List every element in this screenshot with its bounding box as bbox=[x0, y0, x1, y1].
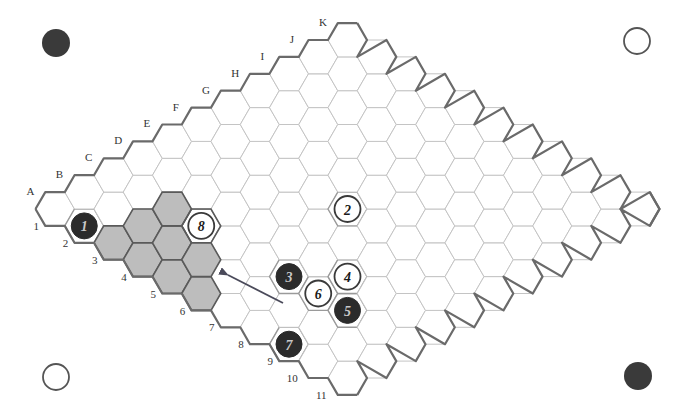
row-label-2: 2 bbox=[63, 237, 69, 249]
row-label-6: 6 bbox=[180, 305, 186, 317]
column-label-E: E bbox=[144, 117, 151, 129]
corner-marker-top-right-white bbox=[624, 28, 650, 54]
stone-move-6: 6 bbox=[305, 281, 331, 307]
stone-move-8: 8 bbox=[188, 213, 214, 239]
row-label-7: 7 bbox=[209, 321, 215, 333]
stone-move-2: 2 bbox=[335, 196, 361, 222]
move-number: 2 bbox=[343, 203, 351, 218]
column-label-F: F bbox=[173, 101, 179, 113]
move-number: 5 bbox=[344, 304, 351, 319]
row-label-4: 4 bbox=[121, 271, 127, 283]
column-label-C: C bbox=[85, 151, 92, 163]
column-label-A: A bbox=[27, 185, 35, 197]
row-label-5: 5 bbox=[151, 288, 157, 300]
column-label-K: K bbox=[319, 16, 327, 28]
stone-move-3: 3 bbox=[276, 264, 302, 290]
stone-move-4: 4 bbox=[335, 264, 361, 290]
move-number: 3 bbox=[285, 270, 293, 285]
row-label-11: 11 bbox=[316, 389, 327, 401]
column-label-I: I bbox=[261, 50, 265, 62]
column-label-G: G bbox=[202, 84, 210, 96]
row-label-10: 10 bbox=[287, 372, 299, 384]
row-label-3: 3 bbox=[92, 254, 98, 266]
move-number: 6 bbox=[315, 287, 322, 302]
column-label-J: J bbox=[290, 33, 295, 45]
row-label-1: 1 bbox=[34, 220, 40, 232]
column-label-D: D bbox=[114, 134, 122, 146]
move-number: 4 bbox=[343, 270, 351, 285]
stone-move-5: 5 bbox=[335, 297, 361, 323]
move-number: 7 bbox=[286, 338, 294, 353]
move-number: 8 bbox=[198, 219, 205, 234]
column-label-B: B bbox=[56, 168, 63, 180]
hex-board: ABCDEFGHIJK1234567891011 12345678 bbox=[0, 0, 689, 416]
column-label-H: H bbox=[231, 67, 239, 79]
row-label-8: 8 bbox=[238, 338, 244, 350]
corner-marker-top-left-black bbox=[42, 29, 70, 57]
move-number: 1 bbox=[81, 219, 88, 234]
corner-marker-bottom-left-white bbox=[43, 364, 69, 390]
stone-move-1: 1 bbox=[71, 213, 97, 239]
corner-marker-bottom-right-black bbox=[624, 362, 652, 390]
row-label-9: 9 bbox=[268, 355, 274, 367]
stone-move-7: 7 bbox=[276, 331, 302, 357]
